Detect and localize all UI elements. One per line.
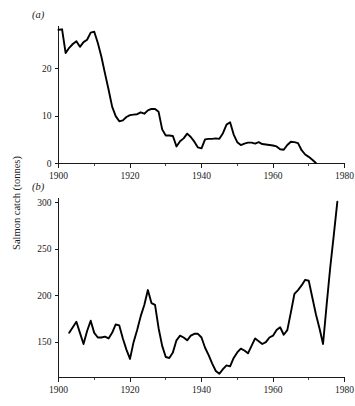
panel-a-y-ticks [55, 69, 59, 164]
panel-a: (a) 0102019001920194019601980 [32, 9, 354, 181]
panel-b-y-ticks [55, 203, 59, 343]
y-tick-label: 150 [37, 337, 52, 347]
panel-a-axes [59, 26, 345, 164]
panel-b-x-ticks [59, 378, 345, 382]
x-tick-label: 1900 [49, 171, 68, 181]
panel-b-tick-labels: 15020025030019001920194019601980 [37, 198, 354, 395]
panel-a-x-ticks [59, 164, 345, 168]
panel-a-label: (a) [32, 9, 45, 21]
panel-a-series [59, 29, 316, 163]
y-tick-label: 10 [42, 111, 52, 121]
x-tick-label: 1940 [192, 171, 211, 181]
x-tick-label: 1900 [49, 385, 68, 395]
panel-b-series [69, 202, 337, 374]
x-tick-label: 1920 [121, 171, 140, 181]
x-tick-label: 1920 [121, 385, 140, 395]
x-tick-label: 1960 [264, 171, 283, 181]
y-tick-label: 0 [47, 159, 52, 169]
y-axis-title: Salmon catch (tonnes) [11, 156, 23, 250]
salmon-catch-figure: Salmon catch (tonnes) (a) 01020190019201… [0, 0, 355, 406]
y-tick-label: 20 [42, 64, 52, 74]
y-tick-label: 250 [37, 244, 52, 254]
y-tick-label: 300 [37, 198, 52, 208]
panel-b-label: (b) [32, 181, 45, 193]
x-tick-label: 1960 [264, 385, 283, 395]
figure-svg: Salmon catch (tonnes) (a) 01020190019201… [0, 0, 355, 406]
y-tick-label: 200 [37, 291, 52, 301]
panel-b: (b) 15020025030019001920194019601980 [32, 181, 354, 395]
x-tick-label: 1980 [335, 171, 354, 181]
panel-b-axes [59, 198, 345, 378]
x-tick-label: 1980 [335, 385, 354, 395]
x-tick-label: 1940 [192, 385, 211, 395]
